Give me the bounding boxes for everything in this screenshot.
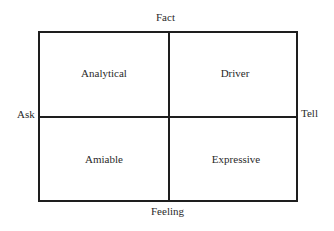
quadrant-driver: Driver <box>221 67 250 80</box>
horizontal-divider <box>40 116 296 118</box>
quadrant-analytical: Analytical <box>81 67 127 80</box>
quadrant-expressive: Expressive <box>212 153 260 166</box>
quadrant-grid: Analytical Driver Amiable Expressive <box>38 31 298 202</box>
quadrant-amiable: Amiable <box>85 153 123 166</box>
axis-label-fact: Fact <box>156 11 175 24</box>
axis-label-ask: Ask <box>17 108 35 121</box>
axis-label-feeling: Feeling <box>151 205 184 218</box>
axis-label-tell: Tell <box>301 107 318 120</box>
